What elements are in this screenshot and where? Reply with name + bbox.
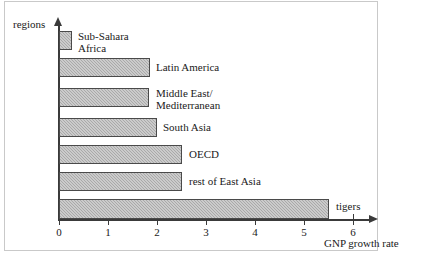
bar-middle-east-mediterranean	[59, 88, 149, 107]
plot-area: regions GNP growth rate 0 1 2 3 4 5 6	[0, 0, 421, 265]
bar-label-line-1: Sub-Sahara	[78, 31, 129, 43]
bar-south-asia	[59, 118, 157, 137]
bar-chart-figure: regions GNP growth rate 0 1 2 3 4 5 6	[0, 0, 421, 265]
bar-label-line-2: Africa	[78, 43, 129, 55]
x-tick-label-3: 3	[203, 226, 209, 238]
bar-label-tigers: tigers	[336, 201, 360, 213]
y-axis-label: regions	[13, 18, 45, 30]
x-tick-label-2: 2	[154, 226, 160, 238]
x-tick-label-6: 6	[350, 226, 356, 238]
x-axis-arrowhead	[369, 215, 378, 223]
bar-latin-america	[59, 58, 150, 77]
x-tick-6	[353, 214, 354, 225]
bar-oecd	[59, 145, 182, 164]
x-axis-label: GNP growth rate	[324, 237, 399, 249]
bar-sub-sahara-africa	[59, 31, 72, 50]
bar-label-south-asia: South Asia	[163, 122, 211, 134]
y-axis-arrowhead	[54, 17, 62, 26]
bar-label-oecd: OECD	[189, 149, 219, 161]
bar-label-middle-east-mediterranean: Middle East/ Mediterranean	[156, 88, 220, 111]
bar-label-line-2: Mediterranean	[156, 100, 220, 112]
bar-rest-of-east-asia	[59, 172, 182, 191]
x-tick-label-0: 0	[56, 226, 62, 238]
x-tick-label-1: 1	[105, 226, 111, 238]
bar-label-rest-of-east-asia: rest of East Asia	[189, 176, 261, 188]
bar-label-line-1: Middle East/	[156, 88, 220, 100]
bar-tigers	[59, 199, 329, 219]
x-tick-label-4: 4	[252, 226, 258, 238]
bar-label-sub-sahara-africa: Sub-Sahara Africa	[78, 31, 129, 54]
bar-label-latin-america: Latin America	[156, 62, 219, 74]
x-axis-line	[58, 219, 370, 221]
x-tick-label-5: 5	[301, 226, 307, 238]
